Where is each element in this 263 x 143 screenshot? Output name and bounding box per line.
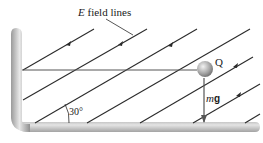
arrow-icon — [168, 42, 173, 47]
weight-gravity: g — [214, 93, 220, 104]
field-line-7 — [245, 114, 260, 123]
field-line-4 — [87, 29, 250, 123]
field-lines — [23, 29, 260, 123]
label-leader-line — [106, 19, 133, 35]
charged-ball — [197, 61, 213, 77]
electric-field-diagram: E field lines Q mg 30° — [0, 0, 263, 143]
efield-text: field lines — [85, 6, 131, 18]
field-line-6 — [193, 84, 260, 123]
arrow-icon — [236, 92, 241, 97]
arrow-icon — [233, 63, 238, 68]
field-line-2 — [23, 29, 147, 100]
diagram-canvas — [0, 0, 263, 143]
efield-symbol: E — [78, 6, 85, 18]
floor-surface — [12, 118, 260, 132]
efield-label: E field lines — [78, 7, 131, 18]
field-line-1 — [23, 29, 94, 70]
weight-mass: m — [206, 92, 214, 104]
charge-label: Q — [215, 57, 223, 68]
angle-label: 30° — [69, 107, 83, 117]
weight-label: mg — [206, 93, 220, 104]
left-wall — [11, 28, 30, 132]
